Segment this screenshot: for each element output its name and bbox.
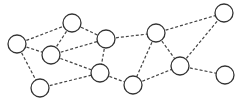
network-diagram (0, 0, 242, 107)
node-layer (8, 4, 234, 97)
node-A (8, 35, 26, 53)
node-F (91, 64, 109, 82)
node-C (42, 46, 60, 64)
node-B (63, 14, 81, 32)
node-K (216, 66, 234, 84)
edge-G-J (156, 13, 224, 33)
node-G (147, 24, 165, 42)
node-H (124, 76, 142, 94)
node-E (31, 79, 49, 97)
node-D (97, 30, 115, 48)
node-I (171, 57, 189, 75)
node-J (215, 4, 233, 22)
edge-I-J (180, 13, 224, 66)
